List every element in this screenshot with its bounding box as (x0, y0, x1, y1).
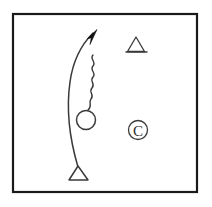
diagram-border (13, 14, 197, 192)
open-circle-symbol (77, 111, 96, 130)
diagram-figure: C (0, 0, 212, 207)
diagram-canvas: C (0, 0, 212, 207)
copyright-letter: C (133, 123, 143, 139)
